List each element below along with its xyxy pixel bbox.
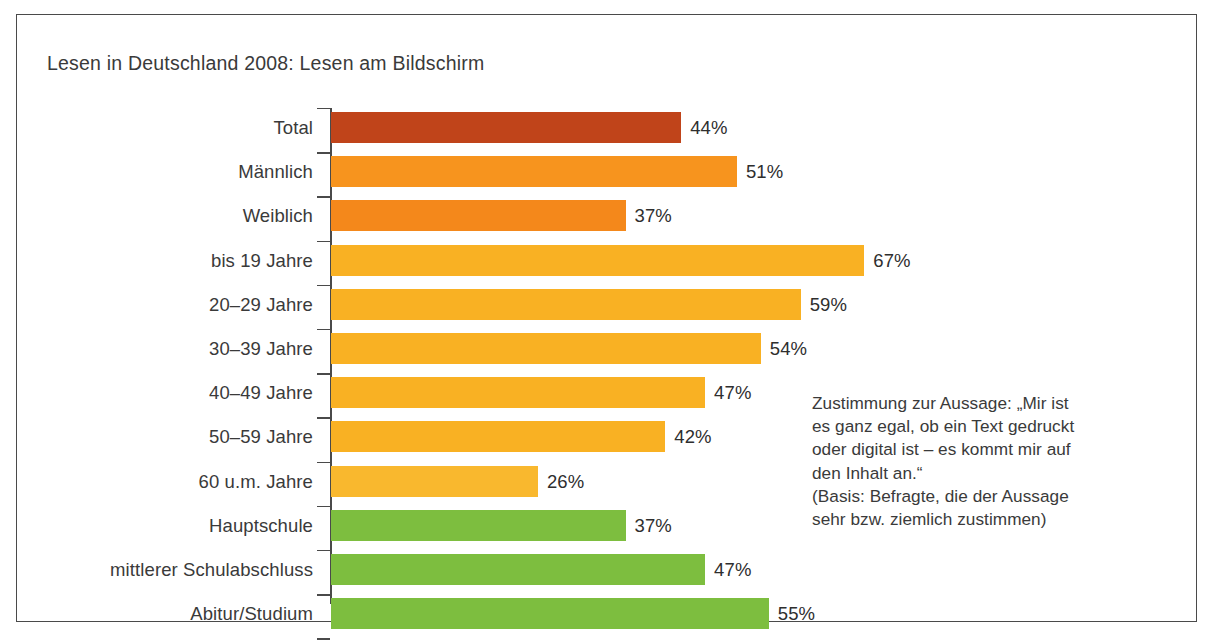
bar-row: Männlich51% [0, 156, 1215, 200]
bar-value-label: 59% [810, 289, 847, 320]
bar-row: 20–29 Jahre59% [0, 289, 1215, 333]
axis-tick [317, 417, 330, 418]
axis-tick [317, 196, 330, 197]
bar-value-label: 44% [690, 112, 727, 143]
category-label: 60 u.m. Jahre [199, 466, 313, 497]
bar [331, 377, 705, 408]
bar [331, 200, 626, 231]
axis-tick [317, 550, 330, 551]
bar-row: Weiblich37% [0, 200, 1215, 244]
axis-tick [317, 506, 330, 507]
axis-tick [317, 594, 330, 595]
annotation-line: (Basis: Befragte, die der Aussage [812, 485, 1172, 508]
bar [331, 510, 626, 541]
annotation-line: oder digital ist – es kommt mir auf [812, 438, 1172, 461]
annotation-text: Zustimmung zur Aussage: „Mir istes ganz … [812, 392, 1172, 531]
annotation-line: Zustimmung zur Aussage: „Mir ist [812, 392, 1172, 415]
plot-area: Total44%Männlich51%Weiblich37%bis 19 Jah… [0, 0, 1215, 641]
category-label: 50–59 Jahre [209, 421, 313, 452]
bar-row: 30–39 Jahre54% [0, 333, 1215, 377]
bar-value-label: 51% [746, 156, 783, 187]
annotation-line: den Inhalt an.“ [812, 462, 1172, 485]
axis-tick [317, 638, 330, 639]
bar [331, 333, 761, 364]
bar-row: Total44% [0, 112, 1215, 156]
axis-tick [317, 462, 330, 463]
bar-value-label: 37% [635, 510, 672, 541]
category-label: 20–29 Jahre [209, 289, 313, 320]
bar [331, 156, 737, 187]
category-label: Männlich [238, 156, 313, 187]
bar-row: mittlerer Schulabschluss47% [0, 554, 1215, 598]
axis-tick [317, 329, 330, 330]
category-label: 30–39 Jahre [209, 333, 313, 364]
bar [331, 289, 801, 320]
axis-tick [317, 285, 330, 286]
category-label: Hauptschule [209, 510, 313, 541]
chart-figure: Lesen in Deutschland 2008: Lesen am Bild… [0, 0, 1215, 641]
category-label: Total [273, 112, 313, 143]
bar-row: Abitur/Studium55% [0, 598, 1215, 641]
bar-value-label: 47% [714, 377, 751, 408]
bar-value-label: 67% [873, 245, 910, 276]
bar-value-label: 42% [674, 421, 711, 452]
annotation-line: es ganz egal, ob ein Text gedruckt [812, 415, 1172, 438]
bar [331, 245, 864, 276]
bar-value-label: 26% [547, 466, 584, 497]
category-label: Abitur/Studium [190, 598, 313, 629]
bar-row: bis 19 Jahre67% [0, 245, 1215, 289]
bar-value-label: 37% [635, 200, 672, 231]
bar-value-label: 54% [770, 333, 807, 364]
annotation-line: sehr bzw. ziemlich zustimmen) [812, 508, 1172, 531]
axis-tick [317, 373, 330, 374]
bar [331, 466, 538, 497]
axis-tick [317, 241, 330, 242]
bar [331, 112, 681, 143]
category-label: mittlerer Schulabschluss [110, 554, 313, 585]
bar [331, 554, 705, 585]
bar [331, 598, 769, 629]
bar-value-label: 47% [714, 554, 751, 585]
category-label: Weiblich [243, 200, 313, 231]
axis-tick [317, 152, 330, 153]
bar-value-label: 55% [778, 598, 815, 629]
category-label: bis 19 Jahre [211, 245, 313, 276]
bar [331, 421, 665, 452]
axis-tick [317, 108, 330, 109]
category-label: 40–49 Jahre [209, 377, 313, 408]
